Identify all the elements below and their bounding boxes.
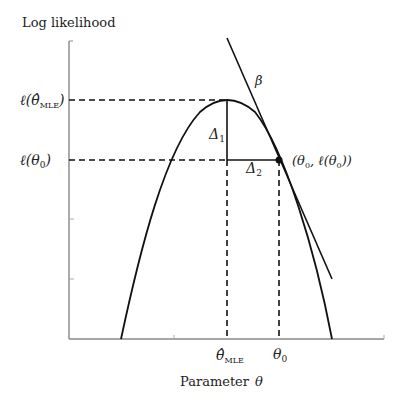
x-axis-title: Parameterθ <box>180 374 263 389</box>
tangent-point-label: (θ0, ℓ(θ0)) <box>292 153 352 170</box>
tangent-point <box>276 157 283 164</box>
x-label-theta0: θ0 <box>273 346 287 364</box>
y-label-theta0: ℓ(θ0) <box>20 152 51 170</box>
beta-label: β <box>254 73 263 88</box>
delta1-label: Δ1 <box>208 126 225 144</box>
x-label-mle: θ̂MLE <box>216 347 244 365</box>
likelihood-diagram: Log likelihood ℓ(θ̂MLE) ℓ(θ0) θ̂MLE θ0 P… <box>0 0 399 403</box>
y-axis-title: Log likelihood <box>22 15 115 30</box>
delta2-label: Δ2 <box>245 160 262 178</box>
y-label-mle: ℓ(θ̂MLE) <box>20 92 65 110</box>
